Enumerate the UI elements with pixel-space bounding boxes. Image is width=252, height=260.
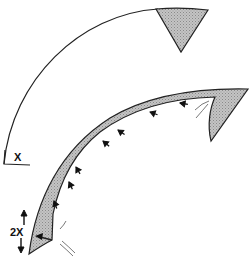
outer-triangle-tip — [156, 8, 208, 52]
x-label: X — [14, 151, 21, 163]
two-x-label: 2X — [10, 226, 23, 238]
tear-lines-upper — [195, 101, 209, 118]
diagram-canvas — [0, 0, 252, 260]
inner-crescent-band — [29, 89, 248, 254]
tear-lines-lower — [60, 221, 75, 256]
